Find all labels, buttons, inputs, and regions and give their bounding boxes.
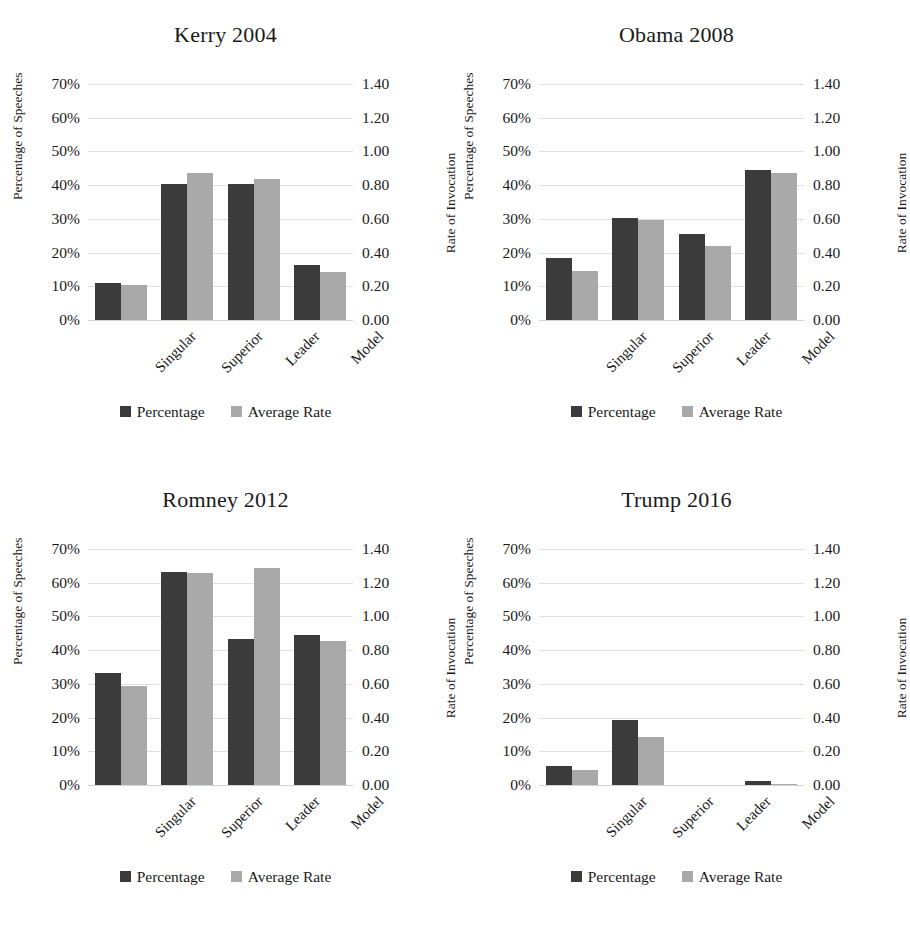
x-axis-category-label: Superior xyxy=(670,793,719,842)
bar-percentage[interactable] xyxy=(745,781,771,785)
bar-group xyxy=(738,84,804,320)
y-tick-label-right: 0.20 xyxy=(813,279,840,295)
y-tick-label-left: 40% xyxy=(503,642,531,658)
y-tick-label-left: 30% xyxy=(503,676,531,692)
y-tick-label-left: 50% xyxy=(52,144,80,160)
legend-label-percentage: Percentage xyxy=(137,869,205,885)
bar-percentage[interactable] xyxy=(612,218,638,320)
bar-average-rate[interactable] xyxy=(320,272,346,320)
plot-area xyxy=(539,84,804,320)
bar-group xyxy=(154,84,220,320)
y-tick-label-right: 0.80 xyxy=(362,177,389,193)
bar-average-rate[interactable] xyxy=(572,770,598,785)
bar-percentage[interactable] xyxy=(745,170,771,320)
y-tick-label-left: 10% xyxy=(503,279,531,295)
bar-percentage[interactable] xyxy=(679,234,705,320)
y-tick-label-right: 0.40 xyxy=(813,245,840,261)
x-axis-category-labels: SingularSuperiorLeaderModel xyxy=(88,787,353,861)
y-axis-title-left: Percentage of Speeches xyxy=(461,73,477,200)
bar-average-rate[interactable] xyxy=(187,573,213,785)
y-tick-label-right: 0.60 xyxy=(362,211,389,227)
bar-percentage[interactable] xyxy=(612,720,638,785)
y-tick-label-left: 50% xyxy=(503,144,531,160)
page-title: Romney 2012 xyxy=(0,487,451,513)
bar-average-rate[interactable] xyxy=(320,641,346,785)
page-title: Obama 2008 xyxy=(451,22,902,48)
y-axis-ticks-right: 1.401.201.000.800.600.400.200.00 xyxy=(813,77,865,320)
y-tick-label-right: 0.00 xyxy=(362,777,389,793)
bar-percentage[interactable] xyxy=(228,639,254,785)
legend-item-percentage: Percentage xyxy=(120,869,205,885)
bar-percentage[interactable] xyxy=(161,572,187,785)
y-tick-label-left: 30% xyxy=(503,211,531,227)
bar-average-rate[interactable] xyxy=(705,246,731,320)
x-axis-category-label: Model xyxy=(798,793,838,833)
y-tick-label-left: 70% xyxy=(503,541,531,557)
y-axis-title-left: Percentage of Speeches xyxy=(10,538,26,665)
bar-percentage[interactable] xyxy=(294,265,320,320)
legend-swatch-average-rate-icon xyxy=(231,406,242,417)
x-axis-category-label: Leader xyxy=(733,793,774,834)
bar-percentage[interactable] xyxy=(294,635,320,785)
bar-average-rate[interactable] xyxy=(254,568,280,785)
bar-percentage[interactable] xyxy=(546,258,572,320)
bar-group xyxy=(738,549,804,785)
bar-average-rate[interactable] xyxy=(638,220,664,320)
y-tick-label-right: 1.00 xyxy=(813,609,840,625)
plot-area xyxy=(539,549,804,785)
y-tick-label-left: 0% xyxy=(510,312,531,328)
bar-percentage[interactable] xyxy=(546,766,572,785)
bar-average-rate[interactable] xyxy=(254,179,280,320)
chart-panel-obama-2008: Obama 2008 Percentage of Speeches Rate o… xyxy=(451,0,902,465)
x-axis-category-labels: SingularSuperiorLeaderModel xyxy=(88,322,353,396)
y-tick-label-right: 0.00 xyxy=(362,312,389,328)
y-tick-label-left: 40% xyxy=(52,642,80,658)
bar-average-rate[interactable] xyxy=(121,686,147,785)
bar-average-rate[interactable] xyxy=(771,173,797,321)
y-tick-label-right: 0.60 xyxy=(362,676,389,692)
y-tick-label-right: 1.40 xyxy=(813,76,840,92)
y-tick-label-right: 1.40 xyxy=(362,76,389,92)
legend-item-average-rate: Average Rate xyxy=(682,404,783,420)
y-tick-label-right: 0.40 xyxy=(362,245,389,261)
y-axis-title-left: Percentage of Speeches xyxy=(10,73,26,200)
bar-percentage[interactable] xyxy=(161,184,187,320)
legend-item-average-rate: Average Rate xyxy=(682,869,783,885)
bar-percentage[interactable] xyxy=(95,283,121,320)
bar-average-rate[interactable] xyxy=(771,784,797,785)
y-tick-label-left: 50% xyxy=(52,609,80,625)
legend: Percentage Average Rate xyxy=(451,869,902,885)
bar-percentage[interactable] xyxy=(228,184,254,320)
legend-item-percentage: Percentage xyxy=(571,404,656,420)
legend: Percentage Average Rate xyxy=(451,404,902,420)
bar-average-rate[interactable] xyxy=(638,737,664,785)
y-tick-label-left: 60% xyxy=(52,575,80,591)
y-tick-label-right: 0.60 xyxy=(813,211,840,227)
y-tick-label-left: 60% xyxy=(503,575,531,591)
y-tick-label-right: 0.00 xyxy=(813,777,840,793)
bar-group xyxy=(221,549,287,785)
x-axis-category-label: Singular xyxy=(603,328,651,376)
y-tick-label-left: 10% xyxy=(503,744,531,760)
bar-average-rate[interactable] xyxy=(572,271,598,320)
legend-label-average-rate: Average Rate xyxy=(699,869,783,885)
y-tick-label-right: 0.20 xyxy=(362,744,389,760)
y-tick-label-right: 1.20 xyxy=(362,110,389,126)
y-tick-label-right: 1.00 xyxy=(813,144,840,160)
bar-percentage[interactable] xyxy=(95,673,121,785)
chart-panel-kerry-2004: Kerry 2004 Percentage of Speeches Rate o… xyxy=(0,0,451,465)
legend-swatch-percentage-icon xyxy=(571,406,582,417)
chart-panel-trump-2016: Trump 2016 Percentage of Speeches Rate o… xyxy=(451,465,902,931)
y-tick-label-left: 0% xyxy=(510,777,531,793)
chart-panel-romney-2012: Romney 2012 Percentage of Speeches Rate … xyxy=(0,465,451,931)
bar-average-rate[interactable] xyxy=(121,285,147,320)
y-axis-ticks-right: 1.401.201.000.800.600.400.200.00 xyxy=(362,542,414,785)
plot-area xyxy=(88,549,353,785)
bar-average-rate[interactable] xyxy=(187,173,213,321)
legend-swatch-percentage-icon xyxy=(571,871,582,882)
y-axis-ticks-right: 1.401.201.000.800.600.400.200.00 xyxy=(813,542,865,785)
y-tick-label-right: 0.20 xyxy=(813,744,840,760)
bar-groups xyxy=(88,549,353,785)
y-tick-label-left: 10% xyxy=(52,744,80,760)
y-tick-label-right: 0.00 xyxy=(813,312,840,328)
